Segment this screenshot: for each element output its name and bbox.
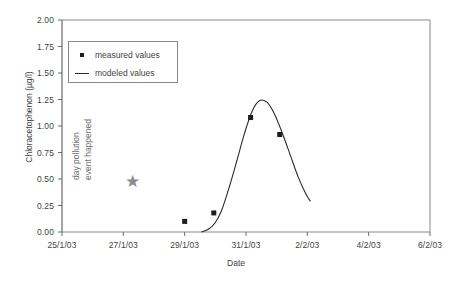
x-tick-label: 4/2/03 [339, 240, 399, 250]
y-tick-label: 1.75 [20, 42, 54, 52]
x-tick-label: 25/1/03 [32, 240, 92, 250]
x-tick-label: 29/1/03 [155, 240, 215, 250]
y-tick-label: 1.50 [20, 68, 54, 78]
square-marker-icon [69, 53, 95, 58]
modeled-values-line [202, 100, 311, 232]
data-point-marker [277, 132, 282, 137]
line-marker-icon [69, 73, 95, 74]
x-axis-label: Date [196, 258, 276, 268]
chart-figure: Chloracetophenon (µg/l) Date 0.000.250.5… [0, 0, 461, 283]
legend-item-modeled: modeled values [69, 66, 179, 80]
data-point-marker [182, 219, 187, 224]
chart-legend: measured values modeled values [68, 41, 178, 83]
y-tick-label: 0.75 [20, 148, 54, 158]
legend-label-measured: measured values [95, 50, 160, 60]
y-tick-label: 1.00 [20, 121, 54, 131]
data-point-marker [248, 115, 253, 120]
y-tick-label: 2.00 [20, 15, 54, 25]
y-tick-label: 1.25 [20, 95, 54, 105]
y-tick-label: 0.00 [20, 227, 54, 237]
y-axis-label: Chloracetophenon (µg/l) [24, 42, 34, 192]
y-tick-label: 0.25 [20, 201, 54, 211]
star-icon: ★ [125, 173, 140, 190]
x-tick-label: 31/1/03 [216, 240, 276, 250]
y-tick-label: 0.50 [20, 174, 54, 184]
legend-label-modeled: modeled values [95, 68, 155, 78]
x-tick-marks [62, 232, 430, 236]
data-point-marker [211, 210, 216, 215]
x-tick-label: 27/1/03 [93, 240, 153, 250]
y-tick-marks [58, 20, 62, 232]
legend-item-measured: measured values [69, 48, 179, 62]
x-tick-label: 6/2/03 [400, 240, 460, 250]
measured-values-markers [182, 115, 282, 224]
x-tick-label: 2/2/03 [277, 240, 337, 250]
